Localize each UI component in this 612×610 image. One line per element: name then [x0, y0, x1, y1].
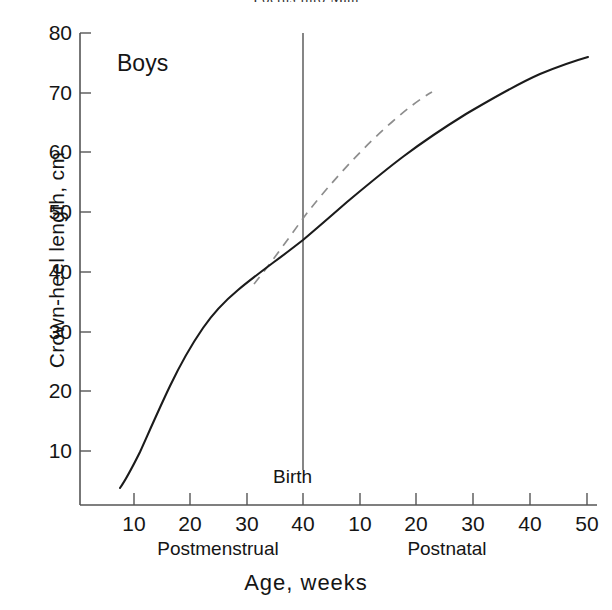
y-axis-title: Crown-heel length, cm: [45, 125, 69, 395]
x-tick-label-postnatal-50: 50: [565, 512, 609, 536]
x-axis-ticks-postmenstrual: [134, 493, 303, 505]
x-axis-group-label-postmenstrual: Postmenstrual: [118, 538, 318, 560]
x-tick-label-postnatal-10: 10: [338, 512, 382, 536]
growth-chart-figure: Foetus into Man: [0, 0, 612, 610]
x-axis-ticks-postnatal: [360, 493, 587, 505]
birth-annotation-label: Birth: [273, 466, 312, 488]
x-tick-label-postnatal-30: 30: [451, 512, 495, 536]
extrapolated-trajectory-line: [254, 92, 432, 284]
x-tick-label-postmenstrual-10: 10: [112, 512, 156, 536]
x-axis-title: Age, weeks: [156, 570, 456, 596]
x-tick-label-postnatal-20: 20: [394, 512, 438, 536]
y-axis-ticks: [80, 33, 91, 451]
y-tick-label-10: 10: [26, 439, 72, 463]
y-tick-label-80: 80: [26, 21, 72, 45]
series-label-boys: Boys: [117, 50, 168, 77]
x-tick-label-postnatal-40: 40: [508, 512, 552, 536]
growth-curve-boys: [120, 57, 588, 488]
x-tick-label-postmenstrual-20: 20: [168, 512, 212, 536]
x-tick-label-postmenstrual-40: 40: [281, 512, 325, 536]
y-tick-label-70: 70: [26, 81, 72, 105]
x-tick-label-postmenstrual-30: 30: [225, 512, 269, 536]
x-axis-group-label-postnatal: Postnatal: [347, 538, 547, 560]
